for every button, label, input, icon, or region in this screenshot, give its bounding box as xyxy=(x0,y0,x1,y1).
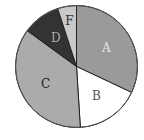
pie-label-d: D xyxy=(51,31,61,45)
pie-chart: ABCDF xyxy=(0,0,144,140)
pie-label-a: A xyxy=(101,41,111,55)
pie-label-b: B xyxy=(92,89,101,103)
pie-label-c: C xyxy=(41,77,50,91)
pie-label-f: F xyxy=(65,14,73,28)
pie-slices xyxy=(16,6,138,128)
